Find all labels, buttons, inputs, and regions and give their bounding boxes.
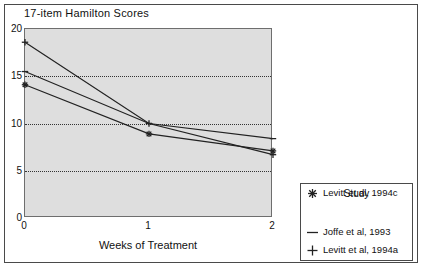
chart-title: 17-item Hamilton Scores xyxy=(24,7,149,19)
plot-area xyxy=(24,28,272,217)
x-tick-label: 0 xyxy=(21,220,27,231)
asterisk-marker-icon xyxy=(306,186,319,199)
chart-figure: 17-item Hamilton Scores 05101520 012 Wee… xyxy=(0,0,423,268)
y-tick-label: 10 xyxy=(0,117,22,128)
series-2 xyxy=(22,82,276,155)
legend-item-label: Joffe et al, 1993 xyxy=(323,226,390,237)
series-0 xyxy=(22,72,276,139)
x-tick-label: 1 xyxy=(145,220,151,231)
legend-item-label: Levitt et al, 1994c xyxy=(323,187,397,198)
legend-item-levitt-1994a[interactable]: Levitt et al, 1994a xyxy=(306,241,398,257)
x-axis-title: Weeks of Treatment xyxy=(24,239,272,251)
y-axis-tick-labels: 05101520 xyxy=(0,28,22,217)
legend-item-joffe-1993[interactable]: Joffe et al, 1993 xyxy=(306,223,390,239)
y-tick-label: 15 xyxy=(0,70,22,81)
x-axis-tick-labels: 012 xyxy=(24,220,272,234)
legend: Study Joffe et al, 1993 Levitt et al, 19… xyxy=(300,183,413,261)
plus-marker-icon xyxy=(306,243,319,256)
series-layer xyxy=(25,29,273,218)
legend-item-label: Levitt et al, 1994a xyxy=(323,244,398,255)
legend-item-levitt-1994c[interactable]: Levitt et al, 1994c xyxy=(306,184,397,200)
dash-marker-icon xyxy=(306,225,319,238)
y-tick-label: 5 xyxy=(0,164,22,175)
y-tick-label: 0 xyxy=(0,212,22,223)
y-tick-label: 20 xyxy=(0,23,22,34)
x-tick-label: 2 xyxy=(269,220,275,231)
